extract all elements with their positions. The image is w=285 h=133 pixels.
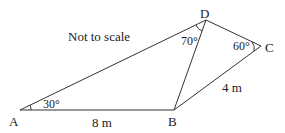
point-label-b: B bbox=[168, 114, 177, 129]
angle-arc-a bbox=[30, 105, 31, 110]
quadrilateral-diagram: Not to scale A B C D 30° 70° 60° 8 m 4 m bbox=[0, 0, 285, 133]
point-label-d: D bbox=[200, 6, 209, 21]
angle-arc-c bbox=[252, 42, 254, 51]
length-label-ab: 8 m bbox=[92, 115, 112, 130]
angle-label-c: 60° bbox=[233, 39, 250, 53]
length-label-bc: 4 m bbox=[222, 80, 242, 95]
point-label-a: A bbox=[9, 114, 19, 129]
point-label-c: C bbox=[265, 40, 274, 55]
angle-label-a: 30° bbox=[43, 97, 60, 111]
segment-bc bbox=[174, 46, 261, 110]
angle-label-d: 70° bbox=[181, 34, 198, 48]
note-not-to-scale: Not to scale bbox=[68, 29, 130, 44]
angle-arc-d bbox=[196, 25, 202, 31]
